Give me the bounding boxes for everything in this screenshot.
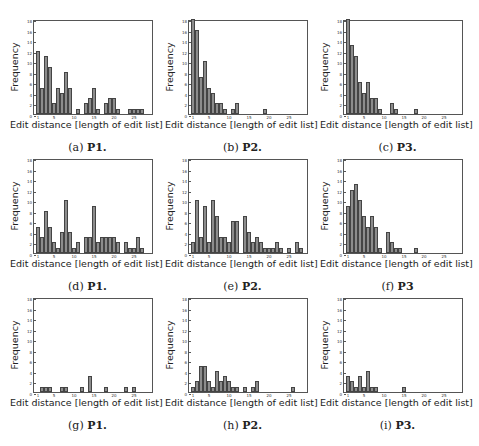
histogram-bar <box>116 242 120 253</box>
y-tick-label: 8 <box>24 71 32 76</box>
histogram-panel-g: 0246810121416181510152025FrequencyEdit d… <box>0 298 159 444</box>
y-tick-label: 8 <box>334 210 342 215</box>
y-tick-mark <box>34 32 36 33</box>
histogram-bar <box>394 109 398 114</box>
y-tick-label: 6 <box>24 82 32 87</box>
histogram-bar <box>76 109 80 114</box>
caption-label: P2. <box>242 141 262 154</box>
x-axis-label: Edit distance [length of edit list] <box>10 119 160 130</box>
y-tick-label: 0 <box>334 253 342 258</box>
y-tick-label: 2 <box>334 242 342 247</box>
histogram-bar <box>299 248 303 253</box>
x-axis-label: Edit distance [length of edit list] <box>165 258 315 269</box>
y-tick-mark <box>189 341 191 342</box>
histogram-bar <box>235 387 239 392</box>
y-tick-label: 0 <box>179 253 187 258</box>
histogram-bar <box>124 387 128 392</box>
x-axis-label: Edit distance [length of edit list] <box>10 258 160 269</box>
histogram-bar <box>414 248 418 253</box>
y-tick-mark <box>189 352 191 353</box>
plot-area: 0246810121416181510152025 <box>188 159 308 254</box>
y-tick-label: 6 <box>179 221 187 226</box>
y-tick-mark <box>344 373 346 374</box>
y-tick-label: 0 <box>334 392 342 397</box>
histogram-panel-e: 0246810121416181510152025FrequencyEdit d… <box>155 159 314 305</box>
plot-area: 0246810121416181510152025 <box>33 298 153 393</box>
y-tick-label: 18 <box>179 19 187 24</box>
caption-letter: (e) <box>223 280 238 293</box>
y-tick-mark <box>189 116 191 117</box>
y-tick-mark <box>34 171 36 172</box>
caption-letter: (g) <box>68 419 84 432</box>
histogram-bar <box>76 242 80 253</box>
y-tick-label: 16 <box>179 307 187 312</box>
y-tick-label: 14 <box>179 179 187 184</box>
x-axis-label: Edit distance [length of edit list] <box>320 258 470 269</box>
y-tick-label: 6 <box>334 221 342 226</box>
y-tick-mark <box>344 331 346 332</box>
subfigure-caption: (a) P1. <box>0 141 175 154</box>
y-tick-label: 8 <box>179 349 187 354</box>
histogram-bar <box>235 103 239 114</box>
y-tick-mark <box>344 202 346 203</box>
y-tick-mark <box>189 213 191 214</box>
caption-letter: (b) <box>223 141 239 154</box>
y-tick-mark <box>189 160 191 161</box>
plot-area: 0246810121416181510152025 <box>343 159 463 254</box>
y-tick-mark <box>189 394 191 395</box>
y-tick-label: 16 <box>24 168 32 173</box>
y-tick-mark <box>344 341 346 342</box>
y-axis-label: Frequency <box>9 320 20 369</box>
y-tick-label: 6 <box>334 360 342 365</box>
y-tick-label: 2 <box>179 242 187 247</box>
y-tick-mark <box>189 234 191 235</box>
y-tick-mark <box>34 383 36 384</box>
y-tick-mark <box>34 320 36 321</box>
y-axis-label: Frequency <box>164 320 175 369</box>
y-tick-label: 16 <box>24 29 32 34</box>
subfigure-caption: (e) P2. <box>155 280 330 293</box>
y-tick-label: 14 <box>24 318 32 323</box>
y-tick-label: 18 <box>334 158 342 163</box>
caption-label: P3. <box>395 419 415 432</box>
y-tick-label: 6 <box>179 360 187 365</box>
y-tick-mark <box>344 181 346 182</box>
histogram-bar <box>287 248 291 253</box>
y-tick-mark <box>344 299 346 300</box>
y-tick-label: 10 <box>179 200 187 205</box>
y-tick-mark <box>34 202 36 203</box>
y-tick-label: 0 <box>24 253 32 258</box>
y-tick-label: 18 <box>24 297 32 302</box>
histogram-bar <box>398 248 402 253</box>
y-tick-mark <box>34 310 36 311</box>
y-axis-label: Frequency <box>164 42 175 91</box>
histogram-panel-a: 0246810121416181510152025FrequencyEdit d… <box>0 20 159 166</box>
y-axis-label: Frequency <box>9 181 20 230</box>
y-tick-mark <box>34 362 36 363</box>
histogram-panel-d: 0246810121416181510152025FrequencyEdit d… <box>0 159 159 305</box>
y-tick-label: 8 <box>334 71 342 76</box>
caption-label: P1. <box>87 141 107 154</box>
y-tick-label: 14 <box>334 179 342 184</box>
y-tick-mark <box>189 255 191 256</box>
y-tick-label: 4 <box>24 92 32 97</box>
histogram-bar <box>378 248 382 253</box>
y-tick-label: 8 <box>24 210 32 215</box>
y-tick-label: 16 <box>334 168 342 173</box>
y-axis-label: Frequency <box>319 42 330 91</box>
y-tick-label: 4 <box>334 370 342 375</box>
histogram-bar <box>255 381 259 392</box>
y-tick-mark <box>344 116 346 117</box>
y-tick-label: 2 <box>179 381 187 386</box>
y-tick-label: 10 <box>334 61 342 66</box>
y-tick-mark <box>34 116 36 117</box>
y-tick-label: 12 <box>179 189 187 194</box>
y-tick-label: 12 <box>24 328 32 333</box>
plot-area: 0246810121416181510152025 <box>33 20 153 115</box>
y-axis-label: Frequency <box>319 320 330 369</box>
y-tick-label: 8 <box>179 210 187 215</box>
histogram-panel-i: 0246810121416181510152025FrequencyEdit d… <box>310 298 469 444</box>
caption-label: P2. <box>242 280 262 293</box>
histogram-bar <box>374 387 378 392</box>
caption-label: P2. <box>242 419 262 432</box>
